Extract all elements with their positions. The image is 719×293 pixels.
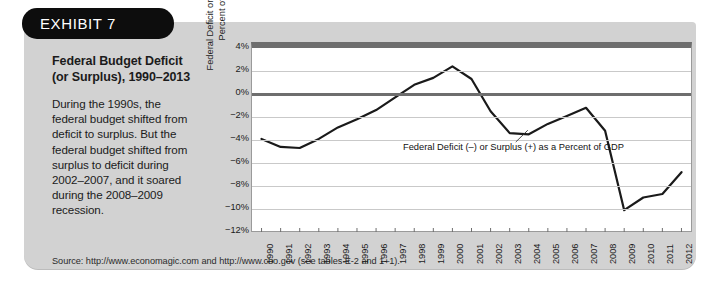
- x-tick-1996: 1996: [379, 244, 389, 264]
- gridline--8: [252, 186, 691, 187]
- y-tick-neg2: −2%: [230, 110, 249, 120]
- x-tick-1995: 1995: [360, 244, 370, 264]
- x-tick-2010: 2010: [646, 244, 656, 264]
- x-tick-1999: 1999: [436, 244, 446, 264]
- y-tick-neg4: −4%: [230, 133, 249, 143]
- x-tick-1990: 1990: [265, 244, 275, 264]
- x-tick-2001: 2001: [475, 244, 485, 264]
- exhibit-figure: EXHIBIT 7 Federal Budget Deficit (or Sur…: [0, 0, 719, 293]
- gridline-2: [252, 71, 691, 72]
- exhibit-badge-label: EXHIBIT 7: [22, 15, 116, 32]
- x-tick-2007: 2007: [589, 244, 599, 264]
- gridline--2: [252, 117, 691, 118]
- x-tick-2009: 2009: [627, 244, 637, 264]
- x-tick-2008: 2008: [608, 244, 618, 264]
- x-tick-1997: 1997: [398, 244, 408, 264]
- exhibit-badge: EXHIBIT 7: [22, 8, 174, 39]
- x-tick-2012: 2012: [684, 244, 694, 264]
- gridline--4: [252, 140, 691, 141]
- x-tick-2006: 2006: [570, 244, 580, 264]
- exhibit-title: Federal Budget Deficit (or Surplus), 199…: [52, 54, 192, 85]
- x-tick-2011: 2011: [665, 244, 675, 264]
- gridline--6: [252, 163, 691, 164]
- y-tick-0: 0%: [236, 87, 249, 97]
- y-tick-neg8: −8%: [230, 179, 249, 189]
- plot-frame: [251, 42, 692, 232]
- x-tick-2005: 2005: [551, 244, 561, 264]
- chart: Federal Deficit or Surplus as a Percent …: [207, 38, 695, 238]
- x-tick-2004: 2004: [532, 244, 542, 264]
- y-axis-tick-labels: 4%2%0%−2%−4%−6%−8%−10%−12%: [207, 38, 249, 238]
- exhibit-description: During the 1990s, the federal budget shi…: [52, 96, 192, 218]
- x-tick-1991: 1991: [284, 244, 294, 264]
- x-tick-1993: 1993: [322, 244, 332, 264]
- x-tick-2000: 2000: [455, 244, 465, 264]
- x-tick-2002: 2002: [494, 244, 504, 264]
- gridline--10: [252, 209, 691, 210]
- y-tick-neg10: −10%: [225, 202, 249, 212]
- y-tick-2: 2%: [236, 64, 249, 74]
- y-tick-4: 4%: [236, 41, 249, 51]
- x-axis-tick-labels: 1990199119921993199419951996199719981999…: [251, 234, 692, 278]
- series-annotation: Federal Deficit (–) or Surplus (+) as a …: [403, 142, 624, 152]
- gridline-0: [252, 93, 691, 96]
- plot-area: Federal Deficit (–) or Surplus (+) as a …: [251, 38, 692, 238]
- x-tick-1992: 1992: [303, 244, 313, 264]
- exhibit-text-column: Federal Budget Deficit (or Surplus), 199…: [52, 54, 192, 218]
- y-tick-neg6: −6%: [230, 156, 249, 166]
- x-tick-1998: 1998: [417, 244, 427, 264]
- x-tick-1994: 1994: [341, 244, 351, 264]
- y-tick-neg12: −12%: [225, 225, 249, 235]
- x-tick-2003: 2003: [513, 244, 523, 264]
